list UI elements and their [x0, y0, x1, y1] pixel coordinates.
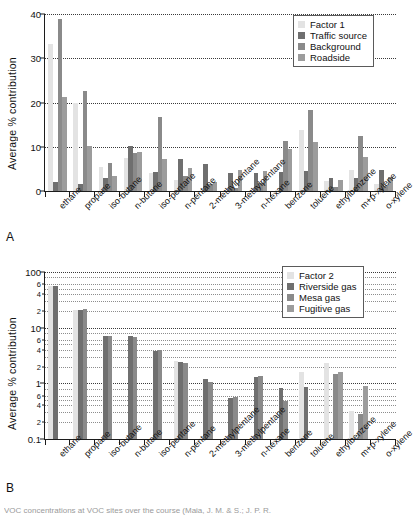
legend-item[interactable]: Fugitive gas: [287, 303, 357, 314]
x-tick-label-cell: ethane: [44, 198, 69, 199]
bar-group: [145, 272, 170, 439]
bar: [73, 103, 78, 192]
bar-group: [95, 272, 120, 439]
x-tick-label-cell: n-pentane: [170, 198, 195, 199]
legend-swatch-icon: [287, 272, 294, 279]
panel-b-legend: Factor 2Riverside gasMesa gasFugitive ga…: [282, 266, 364, 318]
panel-a-x-tick-labels: ethanepropaneiso-butanen-butaneiso-penta…: [44, 198, 396, 199]
bar: [53, 286, 58, 439]
bar: [62, 97, 67, 191]
x-tick-label-cell: ethylbenzene: [321, 198, 346, 199]
bar-group: [95, 14, 120, 191]
bar: [324, 363, 329, 439]
x-tick-label-cell: 3-methylpentane: [220, 198, 245, 199]
bar: [108, 336, 113, 439]
legend-label: Roadside: [310, 52, 350, 63]
x-tick-label-cell: 3-methylpentane: [220, 446, 245, 447]
y-tick-label: 2: [37, 362, 45, 371]
x-tick-label-cell: toluene: [295, 446, 320, 447]
panel-b-x-tick-labels: ethanepropaneiso-butanen-butaneiso-penta…: [44, 446, 396, 447]
bar-group: [120, 14, 145, 191]
y-tick-label: 1: [36, 378, 45, 389]
legend-item[interactable]: Factor 1: [298, 19, 367, 30]
legend-item[interactable]: Roadside: [298, 52, 367, 63]
x-tick-label-cell: benzene: [270, 446, 295, 447]
x-tick-label-cell: benzene: [270, 198, 295, 199]
y-tick-label: 4: [37, 290, 45, 299]
x-tick-label-cell: m+p-xylene: [346, 198, 371, 199]
y-tick-label: 0.1: [28, 434, 45, 445]
x-tick-label-cell: 2-methylpentane: [195, 198, 220, 199]
bar: [313, 142, 318, 191]
y-tick-label: 10: [30, 141, 45, 152]
y-tick-label: 30: [30, 53, 45, 64]
legend-item[interactable]: Riverside gas: [287, 281, 357, 292]
legend-item[interactable]: Mesa gas: [287, 292, 357, 303]
legend-label: Factor 1: [310, 19, 345, 30]
y-tick-label: 6: [37, 280, 45, 289]
x-tick-label-cell: o-xylene: [371, 198, 396, 199]
panel-b-y-axis-label: Average % contribution: [6, 290, 18, 430]
legend-swatch-icon: [298, 43, 305, 50]
y-tick-label: 20: [30, 97, 45, 108]
legend-swatch-icon: [298, 21, 305, 28]
legend-label: Traffic source: [310, 30, 367, 41]
legend-item[interactable]: Factor 2: [287, 270, 357, 281]
panel-a-letter: A: [6, 230, 14, 244]
legend-swatch-icon: [287, 283, 294, 290]
bar-group: [70, 272, 95, 439]
legend-label: Mesa gas: [299, 292, 340, 303]
legend-label: Riverside gas: [299, 281, 357, 292]
legend-label: Factor 2: [299, 270, 334, 281]
legend-item[interactable]: Background: [298, 41, 367, 52]
x-tick-label-cell: n-hexane: [245, 446, 270, 447]
x-tick-label-cell: n-butane: [119, 198, 144, 199]
x-tick-label-cell: propane: [69, 446, 94, 447]
x-tick-label-cell: n-butane: [119, 446, 144, 447]
y-tick-label: 2: [37, 418, 45, 427]
bar: [338, 372, 343, 439]
legend-label: Fugitive gas: [299, 303, 350, 314]
bar-group: [170, 14, 195, 191]
y-tick-label: 6: [37, 391, 45, 400]
bar: [338, 180, 343, 191]
x-tick-label-cell: ethane: [44, 446, 69, 447]
bar-group: [70, 14, 95, 191]
x-tick-label-cell: 2-methylpentane: [195, 446, 220, 447]
panel-b-letter: B: [6, 481, 14, 495]
bar: [87, 146, 92, 191]
bar-group: [45, 272, 70, 439]
bar: [112, 176, 117, 191]
x-tick-label-cell: iso-pentane: [145, 198, 170, 199]
bar: [83, 309, 88, 439]
bar-group: [371, 272, 396, 439]
legend-swatch-icon: [287, 294, 294, 301]
legend-swatch-icon: [298, 54, 305, 61]
panel-b: Average % contribution 0.124612461024610…: [0, 258, 407, 503]
y-tick-label: 6: [37, 336, 45, 345]
legend-swatch-icon: [287, 305, 294, 312]
x-tick-label-cell: m+p-xylene: [346, 446, 371, 447]
bar-group: [120, 272, 145, 439]
legend-swatch-icon: [298, 32, 305, 39]
y-tick-label: 40: [30, 9, 45, 20]
y-tick-label: 10: [30, 322, 45, 333]
y-tick-label: 2: [37, 306, 45, 315]
y-tick-label: 4: [37, 345, 45, 354]
x-tick-label-cell: iso-butane: [94, 446, 119, 447]
bar-group: [221, 14, 246, 191]
bar-group: [195, 14, 220, 191]
bar: [158, 350, 163, 439]
x-tick-label-cell: iso-butane: [94, 198, 119, 199]
bar-group: [45, 14, 70, 191]
x-tick-label-cell: toluene: [295, 198, 320, 199]
x-tick-label-cell: propane: [69, 198, 94, 199]
bar-group: [221, 272, 246, 439]
bar-group: [195, 272, 220, 439]
x-tick-label-cell: ethylbenzene: [321, 446, 346, 447]
panel-a: Average % contribution 010203040 ethanep…: [0, 0, 407, 258]
x-tick-label-cell: n-hexane: [245, 198, 270, 199]
bar-group: [371, 14, 396, 191]
legend-item[interactable]: Traffic source: [298, 30, 367, 41]
bar: [48, 44, 53, 191]
